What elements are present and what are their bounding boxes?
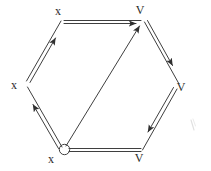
- figure-canvas: x V V V x x: [0, 0, 211, 171]
- vertex-label-top-left: x: [55, 4, 61, 18]
- edge-lower-left: [28, 87, 63, 149]
- vertex-label-top-right: V: [136, 3, 145, 17]
- edge-lower-right: [143, 88, 178, 151]
- hexagon-diagram: x V V V x x: [0, 0, 211, 171]
- edge-upper-left: [27, 21, 62, 83]
- vertex-label-left: x: [11, 78, 17, 92]
- vertex-label-bottom-left: x: [48, 152, 54, 166]
- edge-upper-right: [145, 21, 179, 84]
- edge-bottom: [69, 149, 141, 152]
- vertex-marker-circle: [59, 144, 69, 154]
- edge-top: [64, 21, 141, 24]
- vertex-label-bottom-right: V: [135, 151, 144, 165]
- stray-mark-icon: [191, 119, 196, 130]
- diagonal-main: [66, 26, 140, 146]
- vertex-label-right: V: [177, 80, 186, 94]
